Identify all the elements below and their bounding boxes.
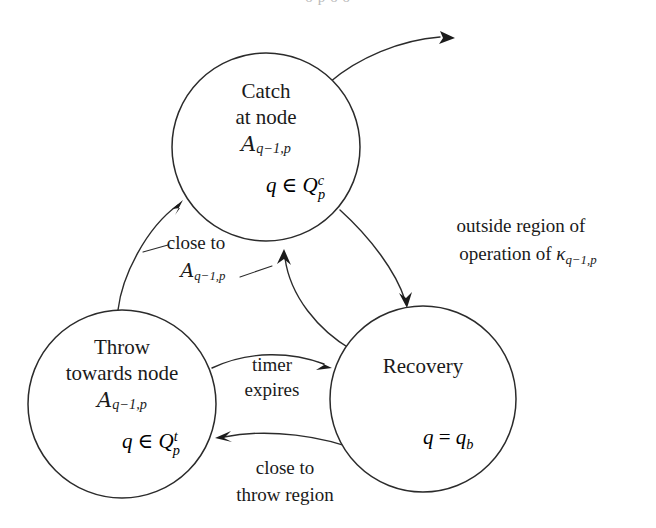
script-a-glyph-edge1: A <box>178 259 194 281</box>
transition-recovery-to-catch <box>277 249 352 350</box>
state-recovery-cond-var: q <box>423 425 434 449</box>
state-catch-cond-sub: p <box>317 186 325 202</box>
state-recovery-cond-set: q <box>456 425 467 449</box>
throw-to-catch-path <box>118 205 178 310</box>
state-catch-node-subscript: q−1,p <box>256 140 291 156</box>
transition-catch-to-recovery <box>340 210 412 308</box>
transition-throw-to-catch <box>118 200 183 310</box>
script-a-glyph-throw: A <box>95 388 112 412</box>
throw-to-catch-label-leader <box>143 245 168 252</box>
state-diagram: o p o o <box>0 0 656 528</box>
state-circle-recovery[interactable] <box>330 306 516 492</box>
edge-label-recovery-to-throw: close to throw region <box>236 457 334 505</box>
edge-catch-to-recovery-subscript: q−1,p <box>565 252 597 267</box>
catch-to-recovery-path <box>340 210 405 300</box>
state-catch-cond-var: q <box>266 173 277 197</box>
recovery-to-catch-path <box>285 258 352 350</box>
state-throw-line2: towards node <box>66 361 179 385</box>
edge-throw-to-catch-line1: close to <box>167 232 226 253</box>
edge-throw-to-recovery-line2: expires <box>245 379 300 400</box>
state-catch-line2: at node <box>235 105 296 129</box>
state-throw-cond-rel: ∈ <box>138 429 154 453</box>
edge-catch-to-recovery-line2: operation of <box>459 243 552 264</box>
state-throw-line1: Throw <box>94 335 151 359</box>
edge-throw-to-catch-subscript: q−1,p <box>194 268 226 283</box>
catch-exit-arrowhead <box>439 31 455 44</box>
state-throw-cond-var: q <box>122 429 133 453</box>
edge-catch-to-recovery-line2-group: operation of κq−1,p <box>459 243 597 267</box>
state-recovery-cond-sub: b <box>466 436 473 452</box>
edge-recovery-to-throw-line1: close to <box>256 457 315 478</box>
catch-to-recovery-arrowhead <box>399 292 412 308</box>
state-catch-line1: Catch <box>242 79 291 103</box>
state-catch-cond-rel: ∈ <box>282 173 298 197</box>
diagram-canvas: Catch at node Aq−1,p q ∈ Qcp Throw towar… <box>0 0 656 528</box>
edge-label-tail-leader <box>240 266 272 277</box>
state-catch-cond-set: Q <box>303 173 318 197</box>
state-recovery-cond-rel: = <box>439 425 451 449</box>
script-a-glyph-catch: A <box>239 132 256 156</box>
catch-exit-path <box>330 37 440 82</box>
state-recovery-line1: Recovery <box>383 354 464 378</box>
edge-throw-to-recovery-line1: timer <box>252 354 293 375</box>
state-throw-cond-sub: p <box>172 442 180 458</box>
state-throw-node-subscript: q−1,p <box>112 396 147 412</box>
edge-throw-to-catch-symbol: Aq−1,p <box>178 259 226 283</box>
edge-label-catch-to-recovery: outside region of operation of κq−1,p <box>457 215 598 267</box>
state-recovery-condition: q = qb <box>423 425 473 452</box>
edge-label-throw-to-recovery: timer expires <box>245 354 300 400</box>
edge-recovery-to-throw-line2: throw region <box>236 484 334 505</box>
edge-catch-to-recovery-line1: outside region of <box>457 215 586 236</box>
state-throw-cond-set: Q <box>159 429 174 453</box>
transition-catch-exit <box>330 31 455 82</box>
recovery-to-catch-arrowhead <box>277 249 291 265</box>
clipped-caption-line: o p o o <box>0 0 656 7</box>
